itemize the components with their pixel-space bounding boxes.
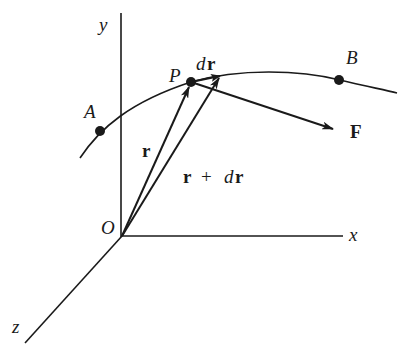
y-axis-label: y: [97, 14, 108, 35]
force-label: F: [350, 121, 362, 142]
svg-text:d: d: [196, 53, 206, 74]
point-a-dot: [95, 126, 105, 136]
point-b-dot: [334, 75, 344, 85]
point-a-label: A: [82, 101, 96, 122]
force-vector-f: [191, 82, 333, 129]
point-b-label: B: [346, 47, 358, 68]
origin-label: O: [101, 217, 115, 238]
svg-text:r: r: [235, 166, 244, 187]
curve-path: [80, 72, 397, 158]
line-integral-diagram: y x z O A P B r r + d r d r: [0, 0, 412, 349]
z-axis: [25, 236, 122, 343]
point-p-label: P: [168, 65, 181, 86]
vector-r-plus-dr-label: r + d r: [183, 166, 244, 187]
displacement-vector-dr: [191, 76, 220, 82]
svg-text:r: r: [183, 166, 192, 187]
svg-text:r: r: [207, 53, 216, 74]
svg-text:d: d: [224, 166, 234, 187]
position-vector-r: [122, 87, 189, 236]
vector-dr-label: d r: [196, 53, 216, 74]
svg-text:+: +: [201, 166, 212, 187]
vector-r-label: r: [142, 140, 151, 161]
position-vector-r-plus-dr: [122, 78, 219, 236]
z-axis-label: z: [11, 316, 20, 337]
x-axis-label: x: [348, 224, 358, 245]
